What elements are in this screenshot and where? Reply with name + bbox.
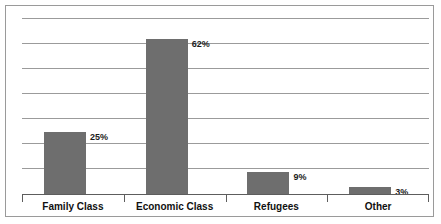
category-tick [22,195,23,202]
category-label: Refugees [254,201,299,212]
category-cell-2: Economic Class [124,195,226,217]
chart-frame-border: 25%62%9%3% Family ClassEconomic ClassRef… [5,5,434,217]
bar-1[interactable]: 25% [44,132,86,195]
category-tick [226,195,227,202]
bar-rect [247,172,289,195]
category-label: Economic Class [136,201,213,212]
bar-rect [349,187,391,195]
bar-rect [146,39,188,194]
category-tick [327,195,328,202]
bar-value-label: 62% [192,39,210,49]
category-cell-1: Family Class [22,195,124,217]
category-label: Other [365,201,392,212]
category-tick [124,195,125,202]
category-cell-4: Other [327,195,429,217]
plot-area: 25%62%9%3% [22,19,429,194]
bar-3[interactable]: 9% [247,172,289,195]
category-label: Family Class [42,201,103,212]
bar-chart-figure: 25%62%9%3% Family ClassEconomic ClassRef… [0,0,441,224]
bars-layer: 25%62%9%3% [22,19,429,194]
bar-value-label: 25% [90,132,108,142]
bar-rect [44,132,86,195]
category-cell-3: Refugees [226,195,328,217]
bar-2[interactable]: 62% [146,39,188,194]
category-label-band: Family ClassEconomic ClassRefugeesOther [22,195,429,217]
category-tick [428,195,429,202]
bar-4[interactable]: 3% [349,187,391,195]
bar-value-label: 9% [293,172,306,182]
